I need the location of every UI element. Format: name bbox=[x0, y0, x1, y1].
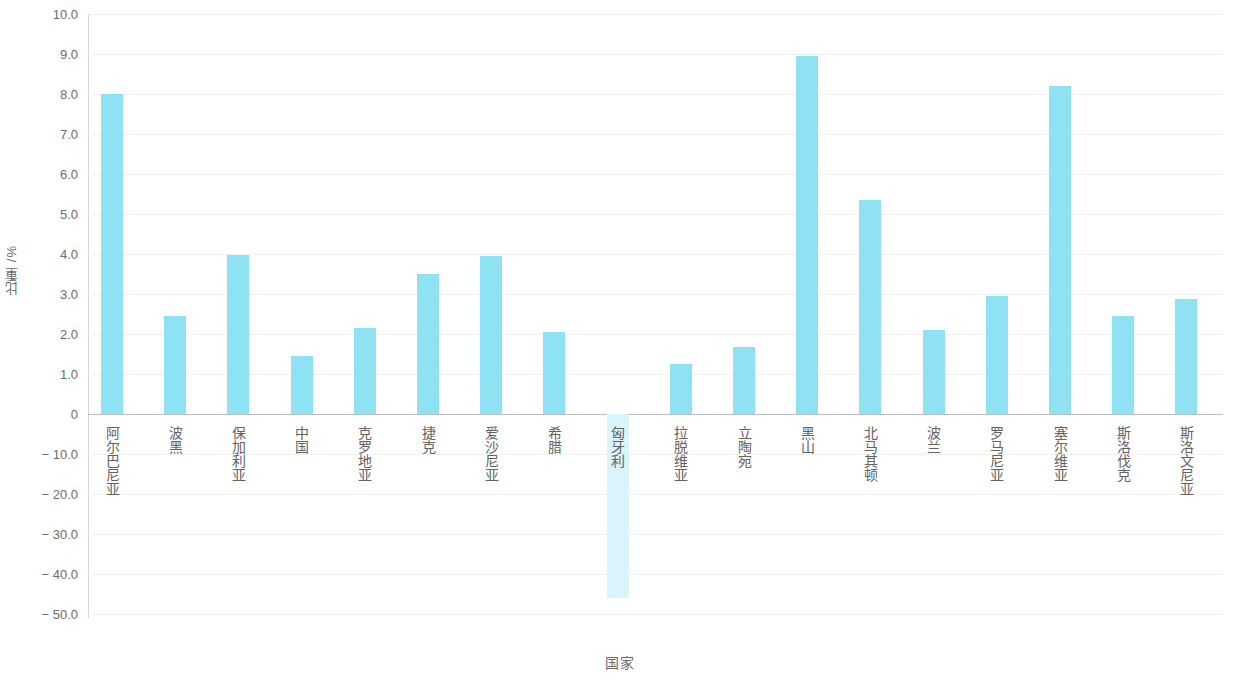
x-tick-label: 保加利亚 bbox=[229, 426, 245, 616]
x-tick-label: 塞尔维亚 bbox=[1051, 426, 1067, 616]
y-tick-label: − 20.0 bbox=[0, 487, 78, 502]
bar bbox=[354, 328, 376, 414]
bar bbox=[417, 274, 439, 414]
x-tick-label: 波兰 bbox=[925, 426, 941, 616]
x-tick-label: 拉脱维亚 bbox=[672, 426, 688, 616]
y-tick-label: 9.0 bbox=[0, 47, 78, 62]
x-tick-label: 匈牙利 bbox=[609, 426, 625, 616]
bar-chart: 比重 /% 10.09.08.07.06.05.04.03.02.01.00− … bbox=[0, 0, 1239, 681]
x-tick-label: 阿尔巴尼亚 bbox=[103, 426, 119, 616]
y-tick-label: 2.0 bbox=[0, 327, 78, 342]
x-tick-label: 斯洛文尼亚 bbox=[1177, 426, 1193, 616]
x-tick-label: 罗马尼亚 bbox=[988, 426, 1004, 616]
x-tick-label: 黑山 bbox=[798, 426, 814, 616]
x-tick-label: 克罗地亚 bbox=[356, 426, 372, 616]
bar bbox=[227, 255, 249, 414]
y-tick-label: − 40.0 bbox=[0, 567, 78, 582]
bar bbox=[164, 316, 186, 414]
bar bbox=[101, 94, 123, 414]
y-tick-label: − 10.0 bbox=[0, 447, 78, 462]
y-tick-label: 10.0 bbox=[0, 7, 78, 22]
y-tick-label: 6.0 bbox=[0, 167, 78, 182]
x-tick-label: 爱沙尼亚 bbox=[482, 426, 498, 616]
bar bbox=[1049, 86, 1071, 414]
x-tick-label: 立陶宛 bbox=[735, 426, 751, 616]
bar bbox=[859, 200, 881, 414]
x-tick-label: 中国 bbox=[293, 426, 309, 616]
bar bbox=[986, 296, 1008, 414]
gridline bbox=[88, 54, 1223, 55]
y-tick-label: 3.0 bbox=[0, 287, 78, 302]
bar bbox=[733, 347, 755, 414]
y-tick-label: − 50.0 bbox=[0, 607, 78, 622]
bar bbox=[796, 56, 818, 414]
y-tick-label: 5.0 bbox=[0, 207, 78, 222]
y-tick-label: − 30.0 bbox=[0, 527, 78, 542]
y-tick-label: 7.0 bbox=[0, 127, 78, 142]
bar bbox=[1175, 299, 1197, 414]
y-tick-label: 0 bbox=[0, 407, 78, 422]
x-tick-label: 北马其顿 bbox=[861, 426, 877, 616]
x-tick-label: 波黑 bbox=[166, 426, 182, 616]
bar bbox=[543, 332, 565, 414]
zero-line bbox=[88, 414, 1223, 415]
gridline bbox=[88, 14, 1223, 15]
bar bbox=[670, 364, 692, 414]
y-tick-label: 4.0 bbox=[0, 247, 78, 262]
x-tick-label: 希腊 bbox=[545, 426, 561, 616]
bar bbox=[480, 256, 502, 414]
x-axis-title: 国家 bbox=[0, 652, 1239, 672]
x-tick-label: 斯洛伐克 bbox=[1114, 426, 1130, 616]
y-tick-label: 8.0 bbox=[0, 87, 78, 102]
bar bbox=[291, 356, 313, 414]
y-tick-label: 1.0 bbox=[0, 367, 78, 382]
x-tick-label: 捷克 bbox=[419, 426, 435, 616]
y-axis-line bbox=[88, 14, 89, 618]
bar bbox=[1112, 316, 1134, 414]
bar bbox=[923, 330, 945, 414]
